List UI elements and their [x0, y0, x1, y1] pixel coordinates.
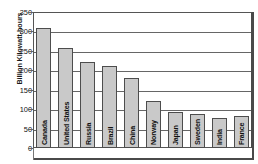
bar-label-united-states: United States — [62, 102, 70, 145]
bar-china[interactable]: China — [124, 78, 139, 148]
bar-label-russia: Russia — [84, 123, 92, 145]
y-axis-tick-mark — [28, 90, 33, 91]
bar-japan[interactable]: Japan — [168, 112, 183, 148]
y-axis-tick-mark — [28, 31, 33, 32]
bar-united-states[interactable]: United States — [58, 48, 73, 148]
bar-label-brazil: Brazil — [106, 127, 114, 145]
y-axis-tick-mark — [28, 109, 33, 110]
bar-brazil[interactable]: Brazil — [102, 66, 117, 148]
chart-frame-right — [252, 12, 254, 160]
bar-label-japan: Japan — [172, 125, 180, 145]
bar-france[interactable]: France — [234, 116, 249, 148]
bar-label-france: France — [238, 123, 246, 145]
y-axis-tick-mark — [28, 12, 33, 13]
bars-layer: CanadaUnited StatesRussiaBrazilChinaNorw… — [33, 12, 252, 148]
bar-label-norway: Norway — [150, 120, 158, 145]
bar-label-sweden: Sweden — [194, 119, 202, 145]
bar-canada[interactable]: Canada — [36, 28, 51, 148]
bar-chart: Billion Kilowatt-hours 35030025020015010… — [0, 0, 258, 164]
y-axis-tick-mark — [28, 51, 33, 52]
bar-label-china: China — [128, 126, 136, 145]
y-axis-tick-mark — [28, 70, 33, 71]
y-axis-tick-mark — [28, 148, 33, 149]
chart-frame-bottom — [33, 158, 253, 160]
bar-norway[interactable]: Norway — [146, 101, 161, 148]
bar-russia[interactable]: Russia — [80, 62, 95, 148]
y-axis-tick-labels: 350300250200150100500 — [12, 0, 32, 164]
bar-sweden[interactable]: Sweden — [190, 114, 205, 148]
y-axis-tick-mark — [28, 129, 33, 130]
bar-label-india: India — [216, 129, 224, 145]
bar-label-canada: Canada — [41, 120, 49, 145]
chart-frame-left-lower — [33, 148, 34, 160]
bar-india[interactable]: India — [212, 118, 227, 148]
